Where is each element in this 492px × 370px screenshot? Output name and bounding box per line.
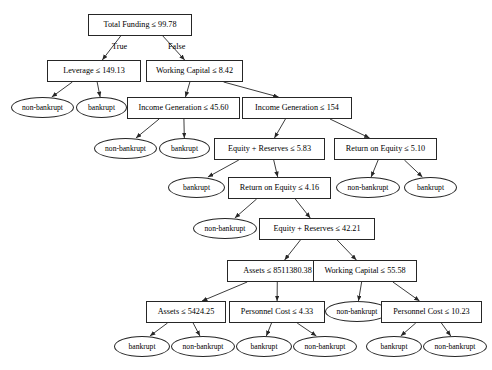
edge-n16-to-n17 [285,240,301,260]
node-label: bankrupt [417,184,444,192]
edge-n9-to-n12 [274,160,278,177]
edge-n10-to-n13 [371,160,378,177]
node-label: Assets ≤ 8511380.38 [243,267,312,275]
node-label: Working Capital ≤ 55.58 [324,267,405,275]
leaf-node-n11: bankrupt [168,177,225,198]
node-label: Income Generation ≤ 45.60 [139,104,229,112]
node-label: bankrupt [251,343,278,351]
leaf-node-n27: bankrupt [366,336,422,357]
edge-n6-to-n9 [274,119,285,138]
decision-node-n5: Income Generation ≤ 45.60 [127,97,240,119]
edge-n18-to-n21 [358,282,361,301]
decision-node-n18: Working Capital ≤ 55.58 [313,260,417,282]
edge-n5-to-n7 [136,119,159,138]
node-label: non-bankrupt [337,308,378,316]
edge-n22-to-n28 [441,323,450,336]
node-label: Assets ≤ 5424.25 [158,308,215,316]
node-label: non-bankrupt [348,184,389,192]
node-label: Return on Equity ≤ 5.10 [346,145,425,153]
edge-label-true: True [112,43,127,51]
leaf-node-n15: non-bankrupt [193,218,257,239]
decision-node-n10: Return on Equity ≤ 5.10 [334,138,437,160]
decision-node-n20: Personnel Cost ≤ 4.33 [229,301,325,323]
leaf-node-n3: non-bankrupt [11,97,74,118]
edge-n17-to-n19 [202,282,247,301]
node-label: non-bankrupt [22,104,63,112]
node-label: non-bankrupt [435,343,476,351]
edge-n1-to-n4 [97,82,100,97]
node-label: Leverage ≤ 149.13 [63,67,125,75]
decision-node-n22: Personnel Cost ≤ 10.23 [381,301,482,323]
decision-node-n1: Leverage ≤ 149.13 [47,60,141,82]
leaf-node-n26: non-bankrupt [293,336,357,357]
leaf-node-n8: bankrupt [159,138,210,159]
edge-n9-to-n11 [208,160,239,177]
leaf-node-n24: non-bankrupt [171,336,235,357]
node-label: bankrupt [183,184,210,192]
node-label: Return on Equity ≤ 4.16 [240,184,319,192]
leaf-node-n25: bankrupt [236,336,292,357]
decision-node-n6: Income Generation ≤ 154 [242,97,352,119]
node-label: Income Generation ≤ 154 [255,104,339,112]
node-label: Personnel Cost ≤ 10.23 [393,308,469,316]
edge-n10-to-n14 [404,160,422,177]
edge-n20-to-n26 [297,323,316,336]
node-label: Equity + Reserves ≤ 5.83 [228,145,311,153]
edge-n2-to-n5 [185,82,189,97]
node-label: Total Funding ≤ 99.78 [103,21,176,29]
decision-node-n9: Equity + Reserves ≤ 5.83 [214,138,325,160]
node-label: non-bankrupt [183,343,224,351]
edge-n12-to-n15 [235,199,257,218]
edge-n20-to-n25 [266,323,271,336]
decision-node-n12: Return on Equity ≤ 4.16 [228,177,331,199]
edge-label-false: False [168,43,185,51]
decision-node-n19: Assets ≤ 5424.25 [146,301,226,323]
node-label: Equity + Reserves ≤ 42.21 [273,225,360,233]
edge-n18-to-n22 [393,282,420,301]
edge-n2-to-n6 [224,82,279,97]
edge-n19-to-n24 [193,323,200,336]
node-label: non-bankrupt [105,145,146,153]
node-label: bankrupt [88,104,115,112]
decision-node-n0: Total Funding ≤ 99.78 [88,14,192,36]
leaf-node-n7: non-bankrupt [94,138,157,159]
edge-n12-to-n16 [295,199,310,218]
leaf-node-n23: bankrupt [114,336,170,357]
edge-n19-to-n23 [150,323,168,336]
decision-node-n2: Working Capital ≤ 8.42 [146,60,243,82]
edge-n1-to-n3 [52,82,73,97]
decision-node-n16: Equity + Reserves ≤ 42.21 [259,218,375,240]
node-label: Working Capital ≤ 8.42 [156,67,233,75]
node-label: bankrupt [171,145,198,153]
node-label: Personnel Cost ≤ 4.33 [241,308,313,316]
leaf-node-n14: bankrupt [404,177,457,198]
node-label: non-bankrupt [205,225,246,233]
leaf-node-n13: non-bankrupt [336,177,400,198]
edge-n16-to-n18 [337,240,356,260]
node-label: bankrupt [381,343,408,351]
leaf-node-n21: non-bankrupt [325,301,389,322]
leaf-node-n4: bankrupt [76,97,127,118]
decision-tree-diagram: Total Funding ≤ 99.78Leverage ≤ 149.13Wo… [0,0,492,370]
edge-n6-to-n10 [330,119,370,138]
node-label: bankrupt [129,343,156,351]
leaf-node-n28: non-bankrupt [423,336,487,357]
edge-n22-to-n27 [401,323,416,336]
node-label: non-bankrupt [305,343,346,351]
